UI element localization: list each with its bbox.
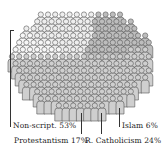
label-protestantism: Protestantism 17% — [14, 136, 88, 145]
person-icon — [109, 96, 117, 114]
crowd-pictograph — [0, 0, 165, 154]
person-icon — [37, 96, 45, 114]
person-icon — [84, 103, 92, 121]
person-icon — [22, 82, 30, 100]
person-icon — [116, 96, 124, 114]
person-icon — [98, 103, 106, 121]
leader-line-protestantism — [81, 113, 82, 134]
leader-line-nonscript — [10, 30, 11, 127]
label-nonscript: Non-script. 53% — [13, 121, 76, 130]
label-catholicism: R. Catholicism 24% — [85, 136, 161, 145]
person-icon — [141, 75, 149, 93]
person-icon — [44, 96, 52, 114]
leader-line-catholicism — [101, 113, 102, 134]
leader-line-nonscript-tick — [10, 30, 14, 31]
label-islam: Islam 6% — [122, 121, 158, 130]
person-icon — [62, 103, 70, 121]
person-icon — [69, 103, 77, 121]
person-icon — [55, 103, 63, 121]
person-icon — [127, 89, 135, 107]
leader-line-islam — [119, 108, 120, 127]
person-icon — [91, 103, 99, 121]
